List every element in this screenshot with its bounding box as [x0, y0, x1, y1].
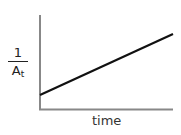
data-line [40, 34, 173, 95]
x-axis-label: time [92, 113, 121, 128]
y-axis-label-denominator: At [8, 62, 28, 79]
y-axis-label: 1 At [8, 46, 28, 79]
y-axis-label-numerator: 1 [8, 46, 28, 62]
y-axis-label-base: A [12, 63, 21, 78]
y-axis-label-subscript: t [21, 69, 25, 79]
